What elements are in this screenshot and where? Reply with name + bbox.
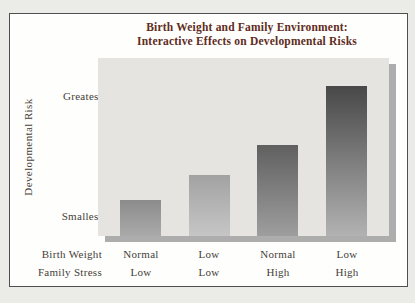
bar-normal-high xyxy=(257,145,298,236)
x-value-birth-weight-3: Normal xyxy=(243,247,313,261)
x-row-birth-weight: Birth Weight Normal Low Normal Low xyxy=(10,247,407,261)
y-tick-greatest: Greatest xyxy=(32,89,102,103)
y-tick-smallest: Smallest xyxy=(32,209,102,223)
x-row-family-stress: Family Stress Low Low High High xyxy=(10,265,407,279)
bar-low-high xyxy=(326,86,367,236)
x-value-family-stress-1: Low xyxy=(106,265,176,279)
x-value-birth-weight-2: Low xyxy=(174,247,244,261)
x-value-family-stress-3: High xyxy=(243,265,313,279)
x-value-birth-weight-4: Low xyxy=(312,247,382,261)
x-value-family-stress-2: Low xyxy=(174,265,244,279)
x-row-label-family-stress: Family Stress xyxy=(10,265,102,279)
plot-area xyxy=(98,58,389,236)
x-row-label-birth-weight: Birth Weight xyxy=(10,247,102,261)
chart-title: Birth Weight and Family Environment: Int… xyxy=(87,21,407,48)
x-value-family-stress-4: High xyxy=(312,265,382,279)
chart-title-line1: Birth Weight and Family Environment: xyxy=(87,21,407,35)
bar-low-low xyxy=(189,175,230,236)
figure-panel: Birth Weight and Family Environment: Int… xyxy=(9,13,408,287)
x-value-birth-weight-1: Normal xyxy=(106,247,176,261)
bar-normal-low xyxy=(120,200,161,236)
chart-title-line2: Interactive Effects on Developmental Ris… xyxy=(87,35,407,49)
